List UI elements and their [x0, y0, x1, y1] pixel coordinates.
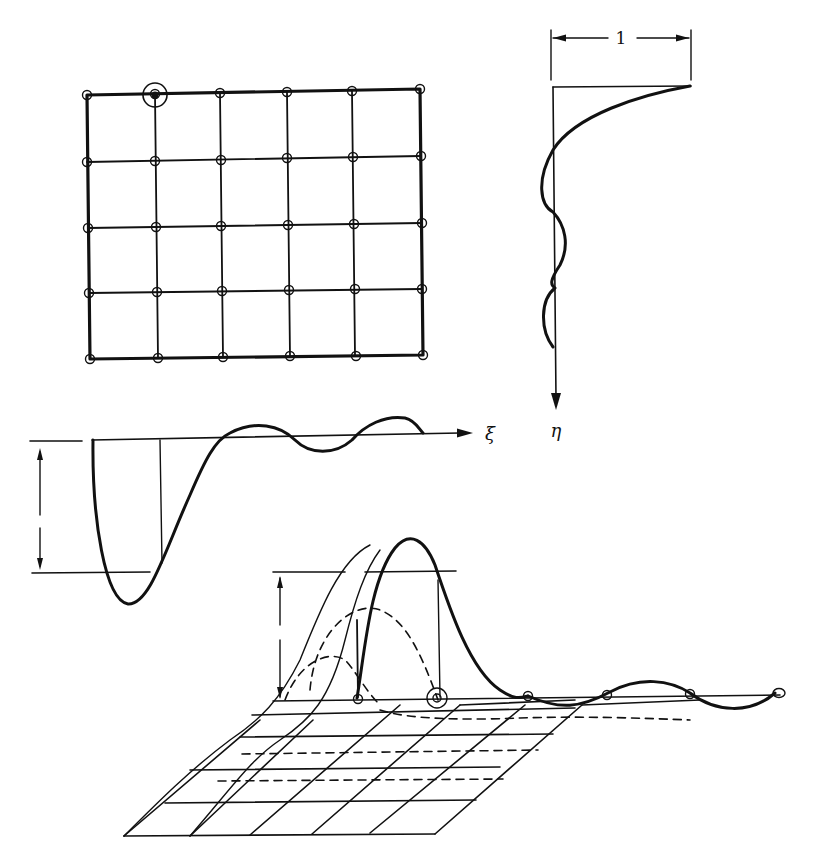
surface-3d — [124, 539, 785, 836]
eta-axis-label: η — [551, 420, 562, 441]
xi-axis-label: ξ — [485, 423, 496, 444]
eta-profile — [542, 30, 691, 410]
influence-surface-diagram: 1 η ξ — [0, 0, 815, 868]
xi-profile — [30, 417, 473, 604]
dimension-label: 1 — [616, 28, 627, 48]
plan-grid — [83, 83, 428, 364]
